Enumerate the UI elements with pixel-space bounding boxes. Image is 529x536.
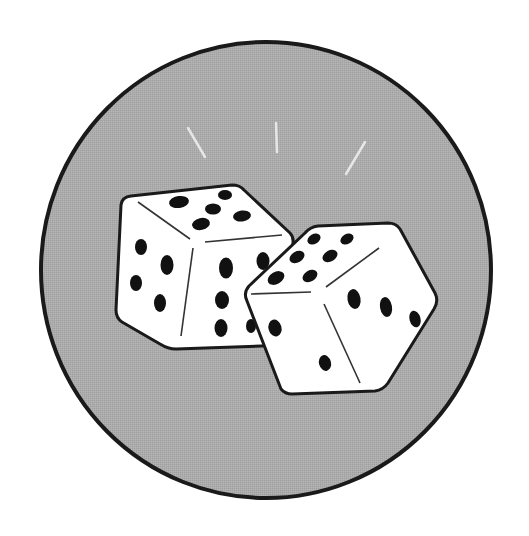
pip xyxy=(218,190,232,200)
dice-badge-illustration xyxy=(0,0,529,536)
sparkle-line-center xyxy=(276,123,277,152)
pip xyxy=(219,258,233,279)
pip xyxy=(161,255,174,275)
pip xyxy=(215,319,228,337)
pip xyxy=(135,239,147,255)
pip xyxy=(215,291,229,309)
pip xyxy=(205,204,221,215)
pip xyxy=(154,294,166,312)
pip xyxy=(130,275,142,291)
dice-badge-svg xyxy=(0,0,529,536)
